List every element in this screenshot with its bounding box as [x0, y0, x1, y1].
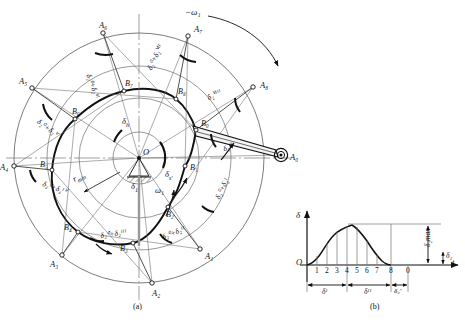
- panel-b-caption: (b): [370, 303, 379, 311]
- point-label-B₈: B₈: [178, 88, 186, 96]
- point-label-B₂: B₂: [166, 211, 174, 219]
- delta-1-label-a: δ1: [131, 182, 138, 193]
- delta-1-label-a-subscript: 1: [135, 187, 138, 193]
- point-label-B₅: B₅: [40, 161, 48, 169]
- b-tick-6: 6: [365, 267, 369, 275]
- phase-return-label: δ₂': [394, 288, 401, 295]
- delta2max-label: δ₂max: [424, 228, 432, 247]
- point-label-A₀: A₀: [290, 153, 298, 162]
- point-label-A₇: A₇: [194, 25, 202, 34]
- panel-a-caption: (a): [133, 303, 142, 311]
- point-label-A₈: A₈: [260, 81, 268, 90]
- b-tick-4: 4: [345, 267, 349, 275]
- delta-h-label: δh: [122, 117, 129, 128]
- point-label-A₁: A₁: [205, 252, 213, 261]
- b-tick-3: 3: [335, 267, 339, 275]
- kinematic-figure: [0, 0, 465, 322]
- point-label-A₂: A₂: [152, 289, 160, 298]
- b-origin-label: O: [296, 258, 302, 267]
- figure-root: A₀A₁A₂A₃A₄A₅A₆A₇A₈B₀B₁B₂B₃B₄B₅B₆B₇B₈δ₂⁰δ…: [0, 0, 465, 322]
- displacement-curve: [307, 225, 391, 265]
- point-label-A₆: A₆: [99, 21, 107, 30]
- b-tick-0: 0: [406, 267, 410, 275]
- point-label-B₀: B₀: [201, 120, 209, 128]
- delta-s-label-subscript: s': [169, 175, 173, 181]
- point-label-A₃: A₃: [50, 260, 58, 269]
- phase-dwell-label: δᴵᴵ: [364, 288, 371, 296]
- center-label: O: [143, 148, 149, 157]
- b-tick-1: 1: [315, 267, 319, 275]
- b-tick-8: 8: [389, 267, 393, 275]
- delta1-label-b: δ₁: [446, 252, 452, 260]
- b-x-axis-label: t: [452, 258, 455, 267]
- delta-s-arc: [160, 142, 165, 168]
- phase-rise-label: δᴵ: [322, 288, 327, 296]
- b-tick-7: 7: [375, 267, 379, 275]
- b-y-axis-label: δ: [296, 211, 300, 220]
- omega-label: −ω₁: [185, 8, 201, 17]
- omega-external-arrow: [208, 16, 278, 66]
- b-tick-2: 2: [325, 267, 329, 275]
- point-label-A₄: A₄: [0, 163, 8, 172]
- point-label-B₁: B₁: [190, 164, 198, 172]
- b-tick-5: 5: [355, 267, 359, 275]
- point-label-A₅: A₅: [19, 77, 27, 86]
- delta-h-arc: [114, 130, 122, 142]
- point-label-B₃: B₃: [120, 245, 128, 253]
- delta-s-label: δs': [165, 170, 173, 181]
- point-label-B₄: B₄: [64, 224, 72, 232]
- panel-b: [300, 211, 458, 292]
- omega1-inner-label: ω₁: [155, 186, 164, 195]
- delta-h-label-subscript: h: [126, 122, 129, 128]
- output-rocker-link: [193, 126, 288, 162]
- point-label-B₆: B₆: [72, 108, 80, 116]
- point-label-B₇: B₇: [125, 80, 133, 88]
